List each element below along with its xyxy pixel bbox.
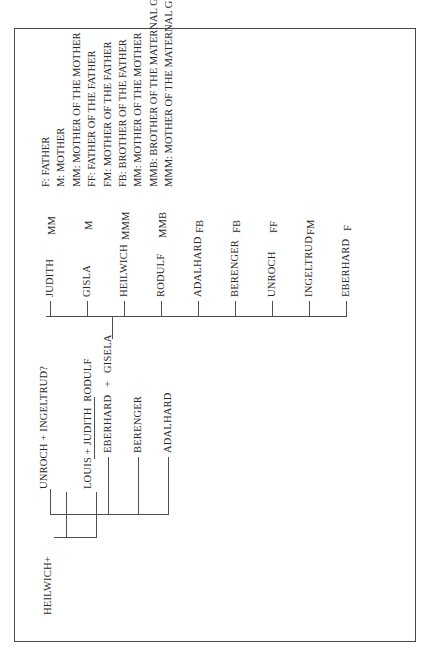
- code-child-4: FB: [194, 220, 205, 233]
- node-marriage-plus: +: [102, 381, 113, 387]
- genealogy-chart: HEILWICH+ UNROCH + INGELTRUD? LOUIS + JU…: [20, 35, 410, 635]
- node-louis-judith-rodulf: LOUIS + JUDITH RODULF: [82, 359, 93, 490]
- legend-item-mm2: MM: MOTHER OF THE MOTHER: [130, 0, 145, 187]
- node-child-6: HEILWICH: [118, 244, 129, 297]
- connector-child-tick: [309, 301, 310, 317]
- node-child-5: RODULF: [155, 254, 166, 297]
- legend: F: FATHER M: MOTHER MM: MOTHER OF THE MO…: [38, 0, 177, 187]
- code-child-5: MMB: [157, 212, 168, 238]
- connector-parents-to-children: [112, 317, 113, 339]
- connector-unroch-to-adalhard: [168, 457, 169, 515]
- legend-item-mmb: MMB: BROTHER OF THE MATERNAL GRANDMOTHER: [146, 0, 161, 187]
- connector-child-tick: [161, 301, 162, 317]
- connector-unroch-stem: [50, 489, 51, 515]
- node-child-4: ADALHARD: [192, 236, 203, 297]
- node-child-0: EBERHARD: [340, 239, 351, 297]
- connector-child-tick: [235, 301, 236, 317]
- node-adalhard-gen3: ADALHARD: [162, 392, 173, 453]
- connector-child-tick: [87, 301, 88, 317]
- node-gisela-gen3: GISELA: [102, 334, 113, 373]
- legend-item-fm: FM: MOTHER OF THE FATHER: [100, 0, 115, 187]
- legend-item-mm: MM: MOTHER OF THE MOTHER: [69, 0, 84, 187]
- connector-child-tick: [124, 301, 125, 317]
- code-child-3: FB: [231, 220, 242, 233]
- connector-unroch-spine: [50, 514, 168, 515]
- node-eberhard-gen3: EBERHARD: [102, 395, 113, 453]
- code-child-7: M: [83, 220, 94, 230]
- connector-louis-to-gisela: [94, 397, 95, 459]
- legend-item-mmm: MMM: MOTHER OF THE MATERNAL GRANDMOTHER: [161, 0, 176, 187]
- code-child-0: F: [342, 225, 353, 231]
- node-heilwich: HEILWICH+: [42, 556, 53, 615]
- connector-child-tick: [50, 301, 51, 317]
- connector-child-tick: [346, 301, 347, 317]
- code-child-1: FM: [305, 219, 316, 235]
- code-child-6: MMM: [120, 211, 131, 240]
- node-child-3: BERENGER: [229, 240, 240, 297]
- legend-item-fb: FB: BROTHER OF THE FATHER: [115, 0, 130, 187]
- connector-child-tick: [272, 301, 273, 317]
- connector-unroch-to-berenger: [138, 457, 139, 515]
- connector-unroch-to-eberhard: [108, 457, 109, 515]
- node-child-8: JUDITH: [44, 259, 55, 297]
- node-child-1: INGELTRUD: [303, 236, 314, 297]
- connector-heilwich-to-rodulf: [96, 492, 97, 538]
- legend-item-m: M: MOTHER: [53, 0, 68, 187]
- node-berenger-gen3: BERENGER: [132, 396, 143, 453]
- figure-page: HEILWICH+ UNROCH + INGELTRUD? LOUIS + JU…: [0, 0, 431, 671]
- code-child-2: FF: [268, 221, 279, 233]
- connector-children-spine: [46, 316, 346, 317]
- legend-item-f: F: FATHER: [38, 0, 53, 187]
- node-unroch-ingeltrud: UNROCH + INGELTRUD?: [38, 366, 49, 489]
- figure-border: HEILWICH+ UNROCH + INGELTRUD? LOUIS + JU…: [14, 28, 416, 642]
- legend-item-ff: FF: FATHER OF THE FATHER: [84, 0, 99, 187]
- node-child-7: GISLA: [81, 265, 92, 297]
- connector-child-tick: [198, 301, 199, 317]
- connector-heilwich-to-louis: [66, 492, 67, 538]
- node-child-2: UNROCH: [266, 251, 277, 297]
- code-child-8: MM: [46, 216, 57, 235]
- connector-heilwich-drop: [54, 537, 96, 538]
